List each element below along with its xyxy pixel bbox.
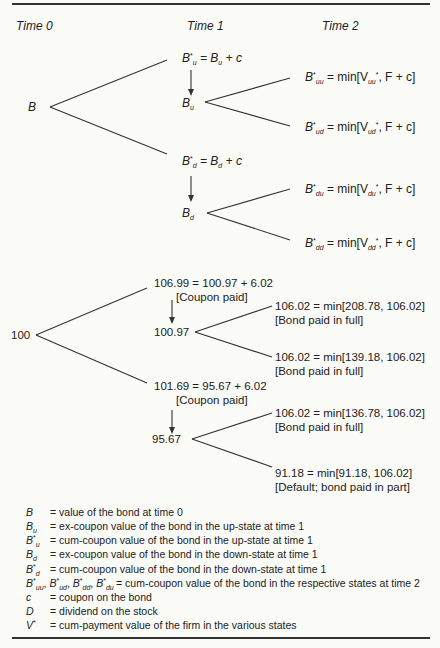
node-root-symbolic: B [28, 100, 36, 114]
legend-text: = coupon on the bond [50, 591, 152, 603]
node-ud-symbolic: B*ud = min[Vud*, F + c] [305, 120, 415, 135]
legend-row: V* [26, 619, 36, 631]
legend-text: = value of the bond at time 0 [50, 506, 183, 518]
node-dd-note: [Default; bond paid in part] [275, 481, 410, 493]
legend-row: B [26, 506, 33, 518]
node-up-cum-symbolic: B*u = Bu + c [182, 51, 242, 66]
header-time-1: Time 1 [187, 19, 224, 33]
node-dd-numeric: 91.18 = min[91.18, 106.02] [275, 467, 412, 479]
bottom-rule [12, 637, 430, 639]
node-up-cum-numeric: 106.99 = 100.97 + 6.02 [154, 277, 273, 289]
legend-text: = cum-coupon value of the bond in the up… [50, 534, 313, 546]
header-time-0: Time 0 [16, 19, 53, 33]
legend-row: B*d [26, 563, 40, 577]
node-up-ex-symbolic: Bu [182, 96, 194, 111]
legend-row: c [26, 591, 31, 603]
node-down-ex-numeric: 95.67 [152, 433, 181, 445]
node-up-cum-note: [Coupon paid] [176, 291, 248, 303]
legend-text: = dividend on the stock [50, 605, 158, 617]
node-ud-numeric: 106.02 = min[139.18, 106.02] [275, 351, 425, 363]
node-uu-symbolic: B*uu = min[Vuu*, F + c] [305, 70, 415, 85]
header-time-2: Time 2 [322, 19, 359, 33]
legend-text: = cum-coupon value of the bond in the do… [50, 563, 326, 575]
node-down-ex-symbolic: Bd [182, 206, 194, 221]
legend-text: = ex-coupon value of the bond in the up-… [50, 520, 304, 532]
node-ud-note: [Bond paid in full] [275, 365, 363, 377]
node-root-numeric: 100 [11, 329, 30, 341]
node-uu-note: [Bond paid in full] [275, 314, 363, 326]
legend-row: D [26, 605, 34, 617]
legend-text: = ex-coupon value of the bond in the dow… [50, 548, 318, 560]
node-uu-numeric: 106.02 = min[208.78, 106.02] [275, 300, 425, 312]
legend-text: = cum-payment value of the firm in the v… [50, 619, 297, 631]
legend-row: B*u [26, 534, 40, 548]
legend-text: = cum-coupon value of the bond in the re… [116, 577, 420, 589]
node-du-note: [Bond paid in full] [275, 421, 363, 433]
node-dd-symbolic: B*dd = min[Vdd*, F + c] [305, 236, 415, 251]
node-du-numeric: 106.02 = min[136.78, 106.02] [275, 407, 425, 419]
node-down-cum-note: [Coupon paid] [176, 394, 248, 406]
legend: B = value of the bond at time 0 Bu = ex-… [0, 506, 440, 636]
node-up-ex-numeric: 100.97 [154, 326, 189, 338]
legend-row: B*uu, B*ud, B*dd, B*du [26, 577, 114, 591]
node-du-symbolic: B*du = min[Vdu*, F + c] [305, 182, 415, 197]
node-down-cum-symbolic: B*d = Bd + c [182, 154, 242, 169]
node-down-cum-numeric: 101.69 = 95.67 + 6.02 [154, 380, 267, 392]
legend-row: Bu [26, 520, 37, 534]
legend-row: Bd [26, 548, 37, 562]
